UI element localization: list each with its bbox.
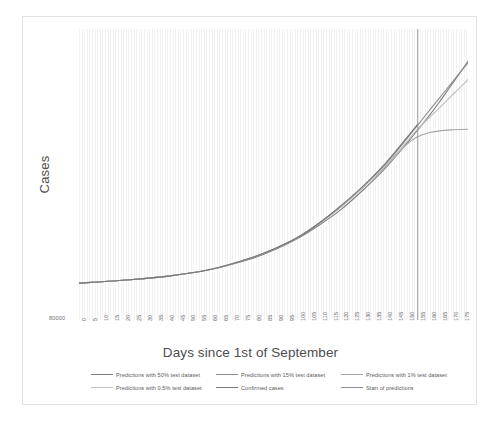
x-axis-tick-label: 125 xyxy=(354,312,360,321)
x-axis-tick-label: 25 xyxy=(136,315,142,321)
x-axis-tick-label: 130 xyxy=(365,312,371,321)
x-axis-tick-label: 170 xyxy=(453,312,459,321)
y-axis-tick-label-80000: 80000 xyxy=(49,315,65,321)
x-axis-tick-label: 55 xyxy=(201,315,207,321)
y-axis-title: Cases xyxy=(37,130,52,220)
x-axis-tick-label: 175 xyxy=(464,312,470,321)
x-axis-tick-label: 0 xyxy=(81,318,87,321)
legend-item-label: Predictions with 15% test dataset xyxy=(241,372,325,378)
chart-legend: Predictions with 50% test datasetPredict… xyxy=(41,369,461,399)
x-axis-title: Days since 1st of September xyxy=(23,345,478,360)
x-axis-tick-label: 15 xyxy=(114,315,120,321)
x-axis-tick-label: 95 xyxy=(289,315,295,321)
plot-area xyxy=(79,29,468,320)
x-axis-tick-label: 105 xyxy=(311,312,317,321)
x-axis-tick-label: 75 xyxy=(245,315,251,321)
series-line xyxy=(79,61,468,283)
x-axis-tick-label: 100 xyxy=(300,312,306,321)
x-axis-tick-label: 165 xyxy=(442,312,448,321)
x-axis-tick-label: 115 xyxy=(333,312,339,321)
x-axis-tick-label: 5 xyxy=(92,318,98,321)
legend-color-swatch xyxy=(216,374,238,375)
x-axis-tick-label: 145 xyxy=(398,312,404,321)
x-axis-tick-label: 40 xyxy=(169,315,175,321)
x-axis-tick-label: 80 xyxy=(256,315,262,321)
x-axis-tick-label: 10 xyxy=(103,315,109,321)
x-axis-tick-label: 35 xyxy=(158,315,164,321)
x-axis-tick-label: 60 xyxy=(212,315,218,321)
x-axis-tick-label: 90 xyxy=(278,315,284,321)
legend-item-label: Predictions with 1% test dataset xyxy=(366,372,447,378)
legend-item-label: Start of predictions xyxy=(366,385,414,391)
legend-color-swatch xyxy=(341,374,363,375)
x-axis-tick-label: 50 xyxy=(190,315,196,321)
x-axis-tick-label: 155 xyxy=(420,312,426,321)
x-axis-tick-label: 85 xyxy=(267,315,273,321)
series-line xyxy=(79,79,468,283)
legend-item-label: Predictions with 50% test dataset xyxy=(116,372,200,378)
chart-frame: Cases 80000 0510152025303540455055606570… xyxy=(22,16,477,405)
x-axis-tick-label: 70 xyxy=(234,315,240,321)
legend-item[interactable]: Predictions with 1% test dataset xyxy=(341,372,447,378)
x-axis-tick-label: 110 xyxy=(322,312,328,321)
legend-item[interactable]: Predictions with 50% test dataset xyxy=(91,372,200,378)
x-axis-tick-label: 45 xyxy=(180,315,186,321)
legend-item[interactable]: Start of predictions xyxy=(341,385,414,391)
x-axis-tick-label: 140 xyxy=(387,312,393,321)
series-line xyxy=(79,124,418,283)
legend-item-label: Confirmed cases xyxy=(241,385,284,391)
x-axis-tick-label: 135 xyxy=(376,312,382,321)
legend-color-swatch xyxy=(91,374,113,375)
legend-row: Predictions with 0.5% test datasetConfir… xyxy=(41,382,461,393)
series-line xyxy=(79,129,468,283)
legend-item[interactable]: Confirmed cases xyxy=(216,385,284,391)
x-axis-tick-label: 120 xyxy=(343,312,349,321)
plot-lines xyxy=(79,29,468,320)
legend-item[interactable]: Predictions with 0.5% test dataset xyxy=(91,385,202,391)
legend-color-swatch xyxy=(341,387,363,388)
x-axis-tick-label: 160 xyxy=(431,312,437,321)
x-axis-tick-label: 20 xyxy=(125,315,131,321)
legend-color-swatch xyxy=(216,387,238,388)
legend-item[interactable]: Predictions with 15% test dataset xyxy=(216,372,325,378)
legend-item-label: Predictions with 0.5% test dataset xyxy=(116,385,202,391)
chart-container: Cases 80000 0510152025303540455055606570… xyxy=(0,0,497,421)
x-axis-tick-label: 65 xyxy=(223,315,229,321)
legend-row: Predictions with 50% test datasetPredict… xyxy=(41,369,461,380)
legend-color-swatch xyxy=(91,387,113,388)
x-axis-tick-label: 150 xyxy=(409,312,415,321)
x-axis-tick-label: 30 xyxy=(147,315,153,321)
